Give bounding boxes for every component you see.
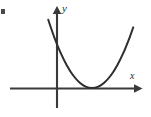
x-axis-label: x: [130, 71, 134, 81]
left-edge-artifact: [1, 9, 5, 14]
parabola-figure: y x: [0, 0, 151, 117]
y-axis-label: y: [62, 3, 67, 14]
graph-canvas: [0, 0, 151, 117]
figure-background: [0, 0, 151, 117]
